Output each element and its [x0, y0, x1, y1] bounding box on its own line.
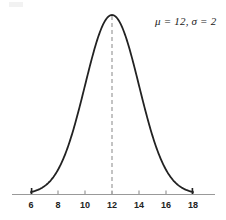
x-tick-label-6: 6: [28, 201, 33, 210]
parameter-annotation: μ = 12, σ = 2: [155, 16, 216, 27]
x-tick-label-18: 18: [188, 201, 198, 210]
x-tick-label-10: 10: [80, 201, 90, 210]
normal-curve-plot: [0, 0, 226, 220]
x-tick-label-12: 12: [107, 201, 117, 210]
x-tick-label-14: 14: [134, 201, 144, 210]
normal-distribution-figure: 6 8 10 12 14 16 18 μ = 12, σ = 2: [0, 0, 226, 220]
x-tick-label-16: 16: [161, 201, 171, 210]
x-tick-label-8: 8: [55, 201, 60, 210]
